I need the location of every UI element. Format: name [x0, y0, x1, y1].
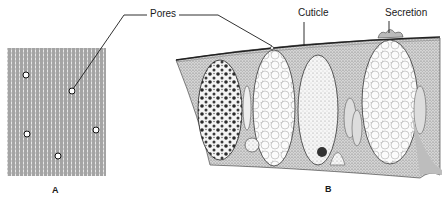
secretion-label: Secretion	[385, 8, 427, 18]
panel-b-cross-section	[176, 30, 442, 179]
pore-icon	[23, 72, 29, 78]
cuticle-label: Cuticle	[298, 8, 329, 18]
narrow-cell	[243, 86, 251, 130]
narrow-cell	[352, 110, 362, 146]
secretion-droplet	[378, 30, 403, 39]
pore-icon	[24, 131, 30, 137]
panel-a-label: A	[52, 185, 59, 195]
panel-a-surface-view	[7, 48, 106, 176]
panel-b-label: B	[325, 184, 332, 194]
pore-icon	[55, 153, 61, 159]
basal-cell	[245, 138, 259, 152]
pore-icon	[69, 88, 75, 94]
narrow-cell	[414, 86, 426, 134]
pore-icon	[93, 127, 99, 133]
nucleus	[317, 147, 327, 157]
secretory-cell	[362, 40, 418, 164]
pores-label: Pores	[150, 9, 176, 19]
pore-icon	[270, 46, 273, 49]
vacuolated-cell	[253, 50, 295, 166]
granular-cell	[198, 60, 242, 160]
pores-leader-right	[179, 15, 272, 46]
diagram-canvas	[0, 0, 448, 197]
fine-granular-cell	[298, 55, 338, 165]
